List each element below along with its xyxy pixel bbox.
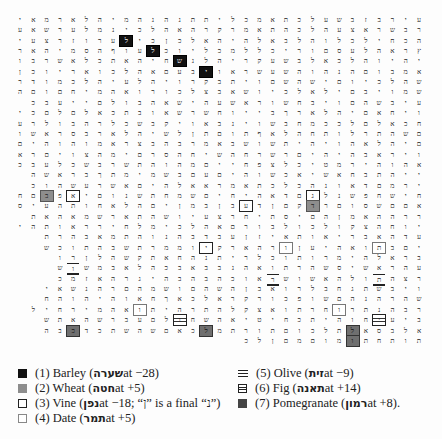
grid-letter: ם <box>94 98 106 108</box>
grid-letter: כ <box>400 119 412 129</box>
grid-letter: ת <box>333 326 345 336</box>
grid-letter: כ <box>27 67 39 77</box>
grid-letter: ה <box>94 46 106 56</box>
grid-letter: ה <box>400 56 412 66</box>
grid-letter: מ <box>174 191 186 201</box>
grid-letter: ל <box>107 119 119 129</box>
grid-letter: ל <box>120 201 132 211</box>
grid-letter: ל <box>373 119 385 129</box>
grid-letter: א <box>107 129 119 139</box>
grid-letter: ש <box>280 67 292 77</box>
grid-letter: ח <box>373 191 385 201</box>
grid-letter: מ <box>386 181 398 191</box>
grid-letter: ה <box>400 263 412 273</box>
grid-letter: ש <box>373 201 385 211</box>
grid-letter: ל <box>134 77 146 87</box>
grid-letter: ב <box>214 119 226 129</box>
grid-letter: ר <box>54 36 66 46</box>
grid-letter: י <box>227 36 239 46</box>
grid-letter: ל <box>280 181 292 191</box>
grid-letter: י <box>240 77 252 87</box>
grid-letter: ם <box>14 139 26 149</box>
grid-letter: ר <box>240 67 252 77</box>
grid-letter: ב <box>386 243 398 253</box>
grid-letter: ם <box>41 108 53 118</box>
grid-letter: ל <box>307 56 319 66</box>
grid-letter: ם <box>373 181 385 191</box>
grid-letter: א <box>360 139 372 149</box>
grid-letter: ו <box>67 294 79 304</box>
grid-letter: ם <box>307 212 319 222</box>
grid-letter: ה <box>107 274 119 284</box>
grid-letter: א <box>293 170 305 180</box>
grid-letter: ר <box>293 108 305 118</box>
grid-letter: א <box>67 315 79 325</box>
grid-letter: ב <box>386 98 398 108</box>
grid-letter: ב <box>360 150 372 160</box>
grid-letter: ה <box>373 160 385 170</box>
grid-letter: ה <box>360 253 372 263</box>
grid-letter: מ <box>214 326 226 336</box>
grid-letter: ר <box>400 46 412 56</box>
grid-letter: ב <box>214 232 226 242</box>
grid-letter: ו <box>347 77 359 87</box>
grid-letter: ש <box>373 98 385 108</box>
grid-letter: ה <box>200 284 212 294</box>
grid-letter: ם <box>360 119 372 129</box>
grid-letter: ת <box>147 305 159 315</box>
grid-letter: ה <box>67 232 79 242</box>
grid-letter: נ <box>360 294 372 304</box>
grid-letter: ם <box>134 150 146 160</box>
grid-letter: ה <box>360 56 372 66</box>
legend-item-olive: (5) Olive (זית at −9) <box>238 366 400 381</box>
grid-letter: ש <box>41 25 53 35</box>
grid-letter: א <box>373 263 385 273</box>
grid-letter: ם <box>200 191 212 201</box>
hebrew-word: רמון <box>345 396 367 411</box>
grid-letter: נ <box>81 284 93 294</box>
grid-letter: ה <box>386 170 398 180</box>
grid-letter: ן <box>267 336 279 346</box>
grid-letter: ם <box>293 150 305 160</box>
grid-letter: ח <box>41 294 53 304</box>
grid-letter: מ <box>67 274 79 284</box>
grid-letter: א <box>373 232 385 242</box>
grid-letter: ח <box>240 212 252 222</box>
grid-letter: ת <box>360 284 372 294</box>
grid-letter: ר <box>147 150 159 160</box>
grid-letter: ה <box>386 212 398 222</box>
grid-letter: ל <box>27 305 39 315</box>
grid-letter: ה <box>81 315 93 325</box>
grid-letter: ש <box>120 243 132 253</box>
grid-letter: א <box>267 284 279 294</box>
grid-letter: ל <box>41 119 53 129</box>
grid-letter: צ <box>400 274 412 284</box>
grid-letter: ה <box>54 181 66 191</box>
grid-letter: ב <box>174 170 186 180</box>
grid-letter: ל <box>187 36 199 46</box>
grid-letter: י <box>360 160 372 170</box>
grid-letter: כ <box>280 87 292 97</box>
grid-letter: פ <box>293 294 305 304</box>
grid-letter: ת <box>134 243 146 253</box>
grid-letter: י <box>400 170 412 180</box>
legend-item-date: (4) Date (תמר at +5) <box>18 411 221 426</box>
grid-letter: מ <box>400 67 412 77</box>
grid-letter: ב <box>54 326 66 336</box>
grid-letter: ב <box>107 263 119 273</box>
grid-letter: ר <box>347 232 359 242</box>
grid-letter: נ <box>160 232 172 242</box>
grid-letter: ע <box>134 46 146 56</box>
grid-letter: ש <box>267 170 279 180</box>
grid-letter: ה <box>400 294 412 304</box>
grid-letter: מ <box>94 25 106 35</box>
grid-letter: מ <box>94 87 106 97</box>
grid-letter: ו <box>253 139 265 149</box>
grid-letter: מ <box>333 336 345 346</box>
grid-letter: ל <box>187 87 199 97</box>
grid-letter: ל <box>347 274 359 284</box>
grid-letter: ת <box>134 212 146 222</box>
grid-letter: א <box>120 56 132 66</box>
grid-letter: י <box>214 15 226 25</box>
grid-letter: י <box>14 15 26 25</box>
